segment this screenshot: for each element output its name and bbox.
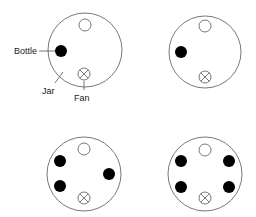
fan-icon xyxy=(78,192,90,204)
bottle-dot xyxy=(175,155,187,167)
jar-diagram: Bottle Jar Fan xyxy=(0,0,256,217)
bottle-label: Bottle xyxy=(14,46,37,56)
jar-label: Jar xyxy=(42,86,55,96)
bottle-dot xyxy=(54,180,66,192)
open-inlet-circle xyxy=(79,19,91,31)
fan-label: Fan xyxy=(74,93,90,103)
bottle-dot xyxy=(103,168,115,180)
panel-2 xyxy=(169,16,241,88)
fan-icon xyxy=(199,192,211,204)
bottle-dot xyxy=(223,155,235,167)
open-inlet-circle xyxy=(199,20,211,32)
bottle-dot xyxy=(175,181,187,193)
bottle-dot xyxy=(54,155,66,167)
open-inlet-circle xyxy=(78,143,90,155)
panel-4 xyxy=(168,137,242,211)
bottle-dot xyxy=(223,181,235,193)
panel-1 xyxy=(48,13,122,87)
fan-icon xyxy=(78,68,90,80)
bottle-dot xyxy=(175,46,187,58)
open-inlet-circle xyxy=(199,144,211,156)
fan-icon xyxy=(199,71,211,83)
bottle-dot xyxy=(55,45,67,57)
panel-3 xyxy=(47,137,121,211)
